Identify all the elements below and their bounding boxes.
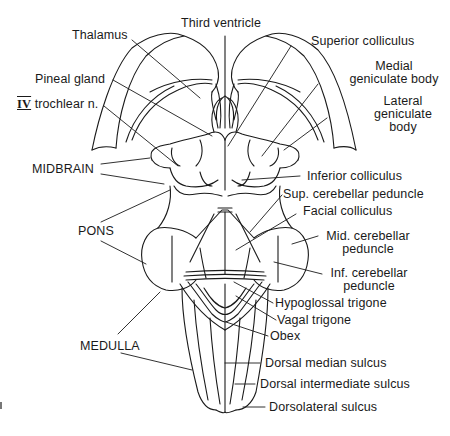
label-midbrain: MIDBRAIN <box>32 163 94 176</box>
label-pons: PONS <box>78 225 114 238</box>
label-inferior-colliculus: Inferior colliculus <box>307 170 402 183</box>
colliculi <box>151 132 299 196</box>
label-inf-cerebellar-peduncle: Inf. cerebellar peduncle <box>322 267 416 293</box>
label-medial-geniculate-body: Medial geniculate body <box>344 60 444 86</box>
label-superior-colliculus: Superior colliculus <box>311 35 414 48</box>
label-dorsolateral-sulcus: Dorsolateral sulcus <box>269 401 377 414</box>
left-thalamus <box>92 33 221 150</box>
label-dorsal-median-sulcus: Dorsal median sulcus <box>265 357 387 370</box>
label-obex: Obex <box>270 330 300 343</box>
inf-cerebellar-line2: peduncle <box>322 280 416 293</box>
label-pineal-gland: Pineal gland <box>35 73 105 86</box>
label-vagal-trigone: Vagal trigone <box>277 314 351 327</box>
lateral-geniculate-line3: body <box>369 121 437 134</box>
roman-numeral-iv: IV <box>17 97 31 111</box>
label-hypoglossal-trigone: Hypoglossal trigone <box>275 297 387 310</box>
pons-and-peduncles <box>142 186 309 291</box>
label-sup-cerebellar-peduncle: Sup. cerebellar peduncle <box>283 188 424 201</box>
label-thalamus: Thalamus <box>72 29 128 42</box>
label-third-ventricle: Third ventricle <box>181 17 261 30</box>
right-thalamus <box>229 33 356 150</box>
trochlear-text: trochlear n. <box>35 97 99 111</box>
label-lateral-geniculate-body: Lateral geniculate body <box>369 95 437 134</box>
label-dorsal-intermediate-sulcus: Dorsal intermediate sulcus <box>260 378 410 391</box>
label-facial-colliculus: Facial colliculus <box>303 205 392 218</box>
label-medulla: MEDULLA <box>80 340 140 353</box>
label-mid-cerebellar-peduncle: Mid. cerebellar peduncle <box>318 230 418 256</box>
trigones <box>180 282 270 330</box>
label-trochlear-nerve: IV trochlear n. <box>17 98 98 111</box>
scan-artifact <box>0 402 2 409</box>
mid-cerebellar-line2: peduncle <box>318 243 418 256</box>
medial-geniculate-line2: geniculate body <box>344 73 444 86</box>
